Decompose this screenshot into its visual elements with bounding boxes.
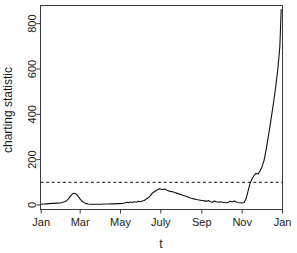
y-tick-label-0: 0: [27, 202, 39, 208]
y-tick-label-200: 200: [27, 150, 39, 168]
x-tick-label-mar-1: Mar: [71, 216, 90, 228]
x-tick-label-may-2: May: [110, 216, 131, 228]
x-tick-label-july-3: July: [151, 216, 171, 228]
x-tick-label-sep-4: Sep: [192, 216, 212, 228]
x-axis-tick-labels: JanMarMayJulySepNovJan: [32, 216, 291, 228]
charting-statistic-line: [41, 10, 281, 205]
x-axis-ticks: [41, 210, 282, 214]
chart-figure: 0200400600800 JanMarMayJulySepNovJan t c…: [0, 0, 297, 253]
x-tick-label-nov-5: Nov: [232, 216, 252, 228]
x-tick-label-jan-0: Jan: [32, 216, 50, 228]
y-tick-label-800: 800: [27, 14, 39, 32]
x-axis-title: t: [159, 237, 163, 251]
y-axis-title: charting statistic: [1, 67, 15, 153]
x-tick-label-jan-6: Jan: [274, 216, 292, 228]
y-tick-label-400: 400: [27, 105, 39, 123]
y-axis-tick-labels: 0200400600800: [27, 14, 39, 208]
y-tick-label-600: 600: [27, 60, 39, 78]
line-chart-svg: 0200400600800 JanMarMayJulySepNovJan t c…: [0, 0, 297, 253]
plot-frame: [41, 6, 283, 210]
